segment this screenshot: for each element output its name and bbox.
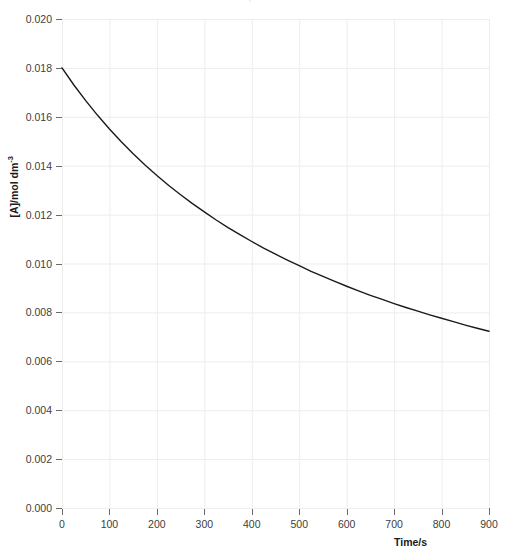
- y-axis-tick-label: 0.020: [0, 14, 52, 25]
- clipped-caption: · , · ·: [0, 0, 506, 3]
- x-axis-tick: [489, 509, 490, 515]
- y-axis-tick-label: 0.012: [0, 210, 52, 221]
- plot-area: [62, 19, 489, 508]
- x-axis-tick: [299, 509, 300, 515]
- chart-figure: · , · · [A]/mol dm-3 Time/s 0.0000.0020.…: [0, 0, 506, 552]
- y-axis-tick-label: 0.002: [0, 454, 52, 465]
- series-line-[A]: [62, 68, 489, 331]
- x-axis-tick: [394, 509, 395, 515]
- x-axis-tick: [442, 509, 443, 515]
- y-axis-tick-label: 0.000: [0, 503, 52, 514]
- x-axis-tick: [62, 509, 63, 515]
- x-axis-tick: [252, 509, 253, 515]
- y-axis-tick-label: 0.018: [0, 63, 52, 74]
- y-axis-tick-label: 0.010: [0, 259, 52, 270]
- y-axis-tick-label: 0.016: [0, 112, 52, 123]
- x-axis-title: Time/s: [394, 536, 494, 548]
- x-axis-tick: [109, 509, 110, 515]
- x-axis-tick: [157, 509, 158, 515]
- y-axis-tick-label: 0.004: [0, 405, 52, 416]
- x-axis-tick: [347, 509, 348, 515]
- x-axis-tick: [204, 509, 205, 515]
- x-axis-tick-label: 900: [459, 519, 506, 530]
- y-axis-tick-label: 0.008: [0, 307, 52, 318]
- y-axis-title: [A]/mol dm-3: [6, 107, 20, 267]
- y-axis-tick-label: 0.014: [0, 161, 52, 172]
- y-axis-tick-label: 0.006: [0, 356, 52, 367]
- data-curve-layer: [62, 19, 489, 508]
